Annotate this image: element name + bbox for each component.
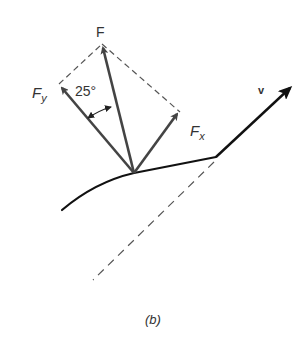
dashed-fy-to-f xyxy=(59,44,102,84)
force-fx-label: Fx xyxy=(190,122,205,142)
angle-label: 25° xyxy=(75,83,96,99)
force-fx-arrow xyxy=(134,114,177,173)
velocity-label: v xyxy=(258,84,265,96)
force-diagram: F Fy 25° Fx v (b) xyxy=(0,0,307,341)
force-f-label: F xyxy=(96,24,105,40)
velocity-arrow xyxy=(216,88,290,157)
force-fy-label: Fy xyxy=(32,84,48,104)
figure-caption: (b) xyxy=(145,312,161,327)
angle-arc xyxy=(88,107,111,118)
dashed-f-to-fx xyxy=(102,44,180,112)
